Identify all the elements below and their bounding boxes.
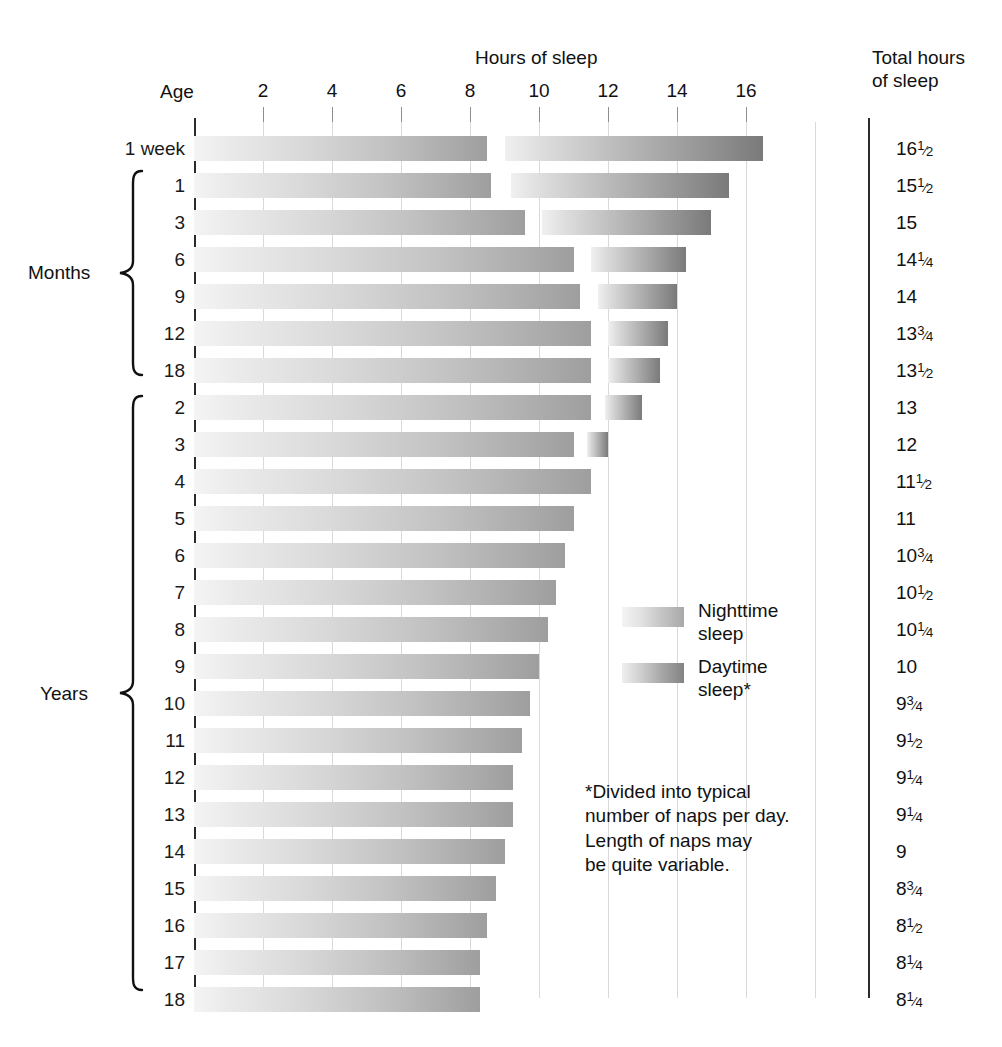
row-total-hours: 111⁄2 [896,471,932,493]
bar-nighttime-sleep [194,543,565,568]
row-total-hours: 14 [896,286,917,308]
x-axis-tick-mark-16 [746,107,747,122]
group-label-months: Months [28,262,90,284]
column-header-age: Age [160,80,194,103]
row-label-age-14: 14 [10,841,185,863]
brace-years [112,393,146,993]
row-total-hours: 91⁄4 [896,804,923,826]
bar-nighttime-sleep [194,321,591,346]
x-axis-tick-label-2: 2 [258,80,269,102]
bar-daytime-sleep [511,173,728,198]
bar-nighttime-sleep [194,654,539,679]
bar-nighttime-sleep [194,765,513,790]
column-header-total-hours: Total hours of sleep [872,46,965,92]
footnote-text: *Divided into typical number of naps per… [585,780,875,877]
chart-row: 1093⁄4 [0,685,1002,723]
bar-daytime-sleep [591,247,686,272]
chart-row: 7101⁄2 [0,574,1002,612]
row-label-age-12: 12 [10,767,185,789]
bar-nighttime-sleep [194,580,556,605]
row-total-hours: 101⁄2 [896,582,933,604]
row-total-hours: 93⁄4 [896,693,923,715]
bar-daytime-sleep [598,284,677,309]
row-label-age-10: 10 [10,693,185,715]
chart-legend: Nighttime sleep Daytime sleep* [622,605,842,717]
x-axis-tick-label-6: 6 [396,80,407,102]
row-label-age-4: 4 [10,471,185,493]
bar-nighttime-sleep [194,617,548,642]
row-total-hours: 91⁄4 [896,767,923,789]
row-label-age-8: 8 [10,619,185,641]
bar-nighttime-sleep [194,691,530,716]
bar-daytime-sleep [605,395,643,420]
chart-row: 1 week161⁄2 [0,130,1002,168]
row-label-age-13: 13 [10,804,185,826]
bar-nighttime-sleep [194,950,480,975]
chart-row: 1781⁄4 [0,944,1002,982]
chart-row: 1881⁄4 [0,981,1002,1019]
bar-nighttime-sleep [194,506,574,531]
row-total-hours: 81⁄4 [896,952,923,974]
row-total-hours: 15 [896,212,917,234]
chart-row: 4111⁄2 [0,463,1002,501]
row-label-age-18: 18 [10,989,185,1011]
row-total-hours: 83⁄4 [896,878,923,900]
x-axis-tick-label-12: 12 [597,80,618,102]
chart-row: 213 [0,389,1002,427]
x-axis-tick-mark-8 [470,107,471,122]
chart-row: 8101⁄4 [0,611,1002,649]
row-label-age-3: 3 [10,212,185,234]
chart-row: 1191⁄2 [0,722,1002,760]
row-label-age-2: 2 [10,397,185,419]
bar-nighttime-sleep [194,876,496,901]
chart-row: 910 [0,648,1002,686]
bar-nighttime-sleep [194,284,580,309]
x-axis-tick-label-4: 4 [327,80,338,102]
brace-months [112,168,146,378]
row-total-hours: 131⁄2 [896,360,933,382]
x-axis-tick-label-16: 16 [735,80,756,102]
row-label-age-9: 9 [10,286,185,308]
row-total-hours: 10 [896,656,917,678]
row-label-age-18: 18 [10,360,185,382]
row-total-hours: 91⁄2 [896,730,923,752]
legend-label-nighttime: Nighttime sleep [698,599,778,645]
row-label-age-15: 15 [10,878,185,900]
bar-nighttime-sleep [194,432,574,457]
row-label-age-11: 11 [10,730,185,752]
row-total-hours: 133⁄4 [896,323,933,345]
chart-row: 18131⁄2 [0,352,1002,390]
row-total-hours: 12 [896,434,917,456]
bar-nighttime-sleep [194,728,522,753]
bar-nighttime-sleep [194,839,505,864]
row-label-age-1-week: 1 week [10,138,185,160]
row-label-age-1: 1 [10,175,185,197]
x-axis-tick-mark-6 [401,107,402,122]
row-total-hours: 161⁄2 [896,138,933,160]
chart-row: 511 [0,500,1002,538]
legend-swatch-nighttime-icon [622,607,684,627]
legend-label-daytime: Daytime sleep* [698,655,768,701]
sleep-chart-figure: Hours of sleep Age Total hours of sleep … [0,0,1002,1047]
chart-row: 312 [0,426,1002,464]
row-total-hours: 13 [896,397,917,419]
legend-swatch-daytime-icon [622,663,684,683]
x-axis-tick-mark-10 [539,107,540,122]
row-total-hours: 141⁄4 [896,249,933,271]
chart-row: 1681⁄2 [0,907,1002,945]
row-total-hours: 151⁄2 [896,175,933,197]
bar-nighttime-sleep [194,136,487,161]
x-axis-tick-mark-2 [263,107,264,122]
row-label-age-5: 5 [10,508,185,530]
row-total-hours: 11 [896,508,916,530]
bar-nighttime-sleep [194,173,491,198]
x-axis-tick-mark-12 [608,107,609,122]
chart-row: 315 [0,204,1002,242]
row-label-age-3: 3 [10,434,185,456]
bar-nighttime-sleep [194,247,574,272]
chart-row: 6103⁄4 [0,537,1002,575]
bar-daytime-sleep [608,321,668,346]
chart-row: 12133⁄4 [0,315,1002,353]
x-axis-tick-label-14: 14 [666,80,687,102]
row-label-age-7: 7 [10,582,185,604]
